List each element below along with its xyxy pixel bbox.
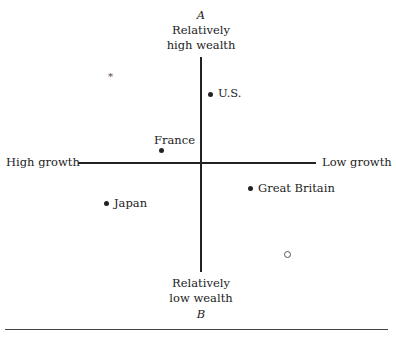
france-label: France: [154, 135, 195, 147]
japan-label: Japan: [114, 198, 147, 210]
pole-b-line2: low wealth: [169, 293, 232, 305]
asterisk-marker: *: [108, 71, 113, 82]
bottom-rule: [5, 329, 388, 330]
open-circle-marker: [284, 251, 291, 258]
left-axis-label: High growth: [6, 157, 80, 169]
pole-a-line2: high wealth: [167, 40, 236, 52]
us-label: U.S.: [218, 88, 241, 100]
pole-b-letter: B: [197, 309, 205, 321]
great-britain-point: [248, 186, 253, 191]
japan-point: [104, 201, 109, 206]
vertical-axis: [200, 57, 202, 272]
pole-a-line1: Relatively: [172, 25, 230, 37]
us-point: [208, 92, 213, 97]
pole-b-line1: Relatively: [172, 278, 230, 290]
horizontal-axis: [78, 162, 316, 164]
right-axis-label: Low growth: [322, 157, 392, 169]
france-point: [159, 148, 164, 153]
pole-a-letter: A: [197, 10, 205, 22]
great-britain-label: Great Britain: [258, 183, 335, 195]
